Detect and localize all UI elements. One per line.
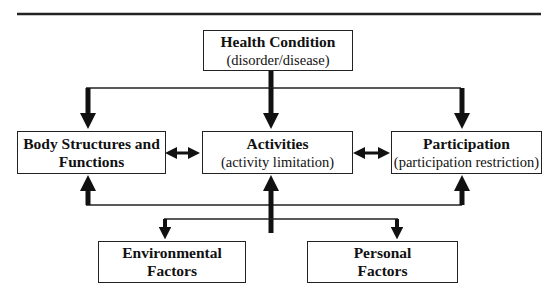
participation-subtitle: (participation restriction) [394, 153, 539, 171]
body-structures-box: Body Structures and Functions [17, 131, 166, 174]
health-condition-subtitle: (disorder/disease) [226, 51, 329, 69]
personal-factors-box: Personal Factors [307, 241, 458, 283]
icf-diagram: Health Condition (disorder/disease) Body… [0, 0, 557, 296]
activities-title: Activities [247, 135, 309, 153]
environmental-title-line1: Environmental [122, 244, 222, 262]
environmental-factors-box: Environmental Factors [98, 241, 246, 283]
health-condition-box: Health Condition (disorder/disease) [203, 30, 353, 71]
activities-subtitle: (activity limitation) [221, 153, 334, 171]
personal-title-line2: Factors [358, 262, 408, 280]
personal-title-line1: Personal [354, 244, 412, 262]
environmental-title-line2: Factors [147, 262, 197, 280]
participation-title: Participation [423, 135, 510, 153]
body-structures-title-line2: Functions [59, 153, 124, 171]
body-structures-title-line1: Body Structures and [23, 135, 160, 153]
participation-box: Participation (participation restriction… [391, 131, 542, 174]
health-condition-title: Health Condition [221, 33, 336, 51]
activities-box: Activities (activity limitation) [202, 131, 353, 174]
